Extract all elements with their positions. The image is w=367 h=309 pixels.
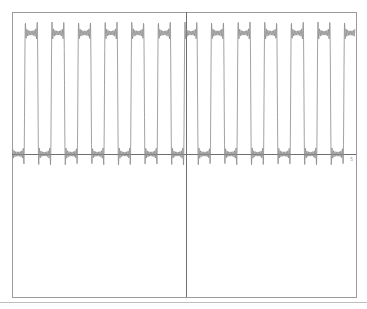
square-wave-curve	[13, 22, 355, 165]
plot-canvas: 5	[0, 0, 367, 309]
x-tick-label-right: 5	[350, 156, 353, 162]
